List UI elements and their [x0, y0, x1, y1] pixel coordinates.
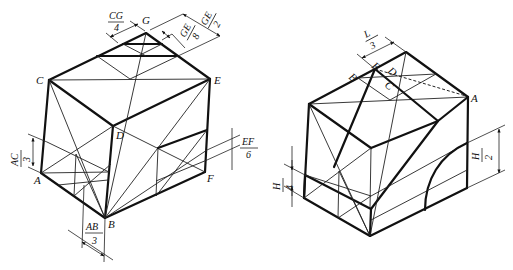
dim-EF-6: EF 6	[207, 128, 258, 170]
svg-text:AB: AB	[85, 221, 98, 232]
label-G: G	[142, 14, 150, 26]
cut-edge-left	[334, 69, 375, 167]
svg-text:4: 4	[114, 22, 119, 33]
top-front-edges	[49, 79, 210, 126]
svg-text:6: 6	[246, 149, 251, 160]
drawing-canvas: G C E D A B F CG 4 GE 8	[0, 0, 513, 270]
label-C: C	[36, 74, 44, 86]
svg-text:H: H	[470, 152, 481, 161]
right-cube: A B E D C L 3 H 4	[271, 24, 505, 236]
label-D: D	[115, 129, 124, 141]
svg-text:4: 4	[284, 185, 295, 190]
svg-text:2: 2	[211, 19, 223, 29]
svg-text:CG: CG	[109, 10, 123, 21]
svg-text:EF: EF	[241, 136, 255, 147]
svg-text:L: L	[361, 27, 372, 40]
svg-text:2: 2	[483, 155, 494, 160]
arc-curve	[425, 143, 467, 210]
svg-text:AC: AC	[9, 153, 20, 167]
top-back-edges	[309, 52, 468, 104]
label-F: F	[206, 172, 214, 184]
dim-CG-4: CG 4	[106, 10, 145, 43]
label-A: A	[33, 174, 41, 186]
svg-text:H: H	[271, 182, 282, 191]
dim-H-2: H 2	[467, 125, 505, 188]
bottom-edges	[41, 172, 205, 218]
dim-H-4: H 4	[271, 146, 305, 207]
label-E: E	[213, 74, 221, 86]
label-A: A	[470, 92, 478, 104]
svg-text:3: 3	[91, 235, 97, 246]
svg-text:8: 8	[190, 31, 202, 41]
svg-text:3: 3	[21, 157, 32, 163]
left-cube: G C E D A B F CG 4 GE 8	[9, 8, 258, 262]
dim-GE: GE 8 GE 2	[150, 8, 226, 56]
label-B: B	[108, 218, 115, 230]
edge-EF	[205, 79, 210, 172]
edge-CA	[41, 80, 49, 173]
svg-text:3: 3	[367, 39, 377, 52]
